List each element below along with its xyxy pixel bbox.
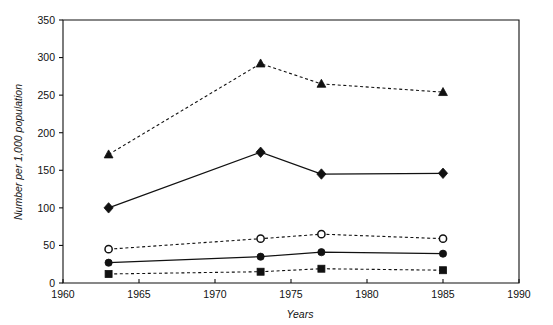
y-tick-label: 200 bbox=[37, 127, 55, 139]
series-open-circle-dashed bbox=[105, 231, 447, 253]
x-axis-label: Years bbox=[287, 308, 315, 320]
data-point-filled-diamond bbox=[438, 168, 447, 178]
data-point-filled-circle bbox=[439, 250, 446, 257]
data-point-open-circle bbox=[105, 246, 112, 253]
x-tick-label: 1975 bbox=[279, 288, 303, 300]
series-triangle-dashed bbox=[104, 59, 447, 158]
y-tick-label: 0 bbox=[49, 277, 55, 289]
y-tick-label: 300 bbox=[37, 51, 55, 63]
plot-frame bbox=[63, 20, 519, 283]
x-axis-ticks: 1960196519701975198019851990 bbox=[51, 279, 531, 300]
y-axis-label: Number per 1,000 population bbox=[12, 84, 24, 220]
data-point-filled-square bbox=[257, 268, 264, 275]
x-tick-label: 1985 bbox=[431, 288, 455, 300]
y-tick-label: 150 bbox=[37, 164, 55, 176]
y-tick-label: 350 bbox=[37, 14, 55, 26]
data-point-open-circle bbox=[439, 235, 446, 242]
series-filled-square-dashed bbox=[105, 265, 446, 277]
x-tick-label: 1970 bbox=[203, 288, 227, 300]
data-point-filled-circle bbox=[257, 253, 264, 260]
x-tick-label: 1960 bbox=[51, 288, 75, 300]
data-point-open-circle bbox=[318, 231, 325, 238]
data-series-group bbox=[104, 59, 448, 278]
y-tick-label: 250 bbox=[37, 89, 55, 101]
data-point-filled-square bbox=[318, 265, 325, 272]
data-point-filled-triangle bbox=[256, 59, 265, 67]
data-point-filled-diamond bbox=[104, 203, 113, 213]
x-tick-label: 1965 bbox=[127, 288, 151, 300]
chart-container: 050100150200250300350 196019651970197519… bbox=[0, 0, 553, 325]
series-filled-circle-solid bbox=[105, 249, 447, 267]
data-point-filled-circle bbox=[105, 259, 112, 266]
y-tick-label: 50 bbox=[43, 239, 55, 251]
line-chart: 050100150200250300350 196019651970197519… bbox=[0, 0, 553, 325]
data-point-open-circle bbox=[257, 235, 264, 242]
data-point-filled-diamond bbox=[256, 147, 265, 157]
data-point-filled-square bbox=[440, 267, 447, 274]
data-point-filled-triangle bbox=[104, 150, 113, 158]
data-point-filled-square bbox=[105, 270, 112, 277]
series-diamond-solid bbox=[104, 147, 448, 213]
data-point-filled-circle bbox=[318, 249, 325, 256]
x-tick-label: 1980 bbox=[355, 288, 379, 300]
x-tick-label: 1990 bbox=[507, 288, 531, 300]
y-axis-ticks: 050100150200250300350 bbox=[37, 14, 63, 289]
y-tick-label: 100 bbox=[37, 202, 55, 214]
data-point-filled-diamond bbox=[317, 169, 326, 179]
